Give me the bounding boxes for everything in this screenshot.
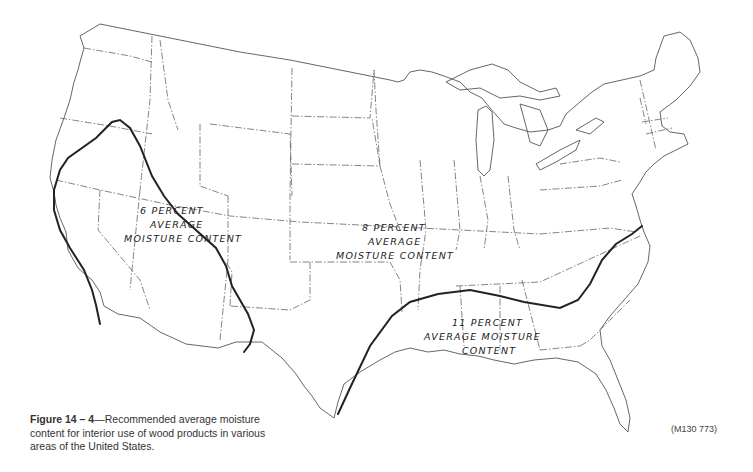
zone-label-line: MOISTURE CONTENT bbox=[124, 233, 242, 244]
lake-superior bbox=[446, 64, 560, 100]
zone-label-line: 6 PERCENT bbox=[140, 205, 204, 216]
zone-label-line: 8 PERCENT bbox=[362, 222, 426, 233]
figure-number: Figure 14 – 4 bbox=[30, 413, 94, 425]
figure-caption: Figure 14 – 4—Recommended average moistu… bbox=[30, 413, 290, 454]
zone-label-line: CONTENT bbox=[462, 345, 516, 356]
lake-huron bbox=[520, 104, 548, 146]
zone-label-line: 11 PERCENT bbox=[452, 317, 523, 328]
zone-label-line: AVERAGE bbox=[367, 236, 421, 247]
zone-label-6-percent: 6 PERCENT AVERAGE MOISTURE CONTENT bbox=[124, 205, 242, 244]
us-moisture-map: 6 PERCENT AVERAGE MOISTURE CONTENT 8 PER… bbox=[0, 0, 753, 472]
lake-michigan bbox=[476, 106, 494, 176]
zone-label-line: MOISTURE CONTENT bbox=[336, 250, 454, 261]
zone-label-line: AVERAGE bbox=[149, 219, 203, 230]
zone-label-line: AVERAGE MOISTURE bbox=[423, 331, 541, 342]
zone-label-8-percent: 8 PERCENT AVERAGE MOISTURE CONTENT bbox=[336, 222, 454, 261]
lake-erie bbox=[536, 140, 580, 170]
figure-id: (M130 773) bbox=[671, 424, 717, 434]
lake-ontario bbox=[576, 118, 604, 134]
state-borders bbox=[56, 36, 672, 350]
